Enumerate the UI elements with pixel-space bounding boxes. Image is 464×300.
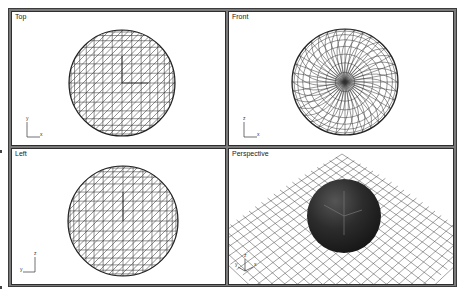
viewport-front[interactable]: z x Front [228,11,454,146]
viewport-top[interactable]: y x Top [11,11,226,146]
axis-gizmo [23,257,35,272]
axis-y-label: y [20,266,23,272]
axis-x-label: x [257,131,260,137]
viewport-layout: y x Top z x Front z y [8,8,457,287]
viewport-perspective[interactable]: z y x Perspective [228,148,454,285]
top-sphere-wireframe: y x [12,12,226,146]
axis-z-label: z [243,115,246,121]
axis-z-label: z [34,250,37,256]
left-sphere-wireframe: z y [12,149,226,285]
perspective-scene: z y x [229,149,454,285]
axis-gizmo [244,122,257,137]
viewport-label-front[interactable]: Front [232,13,248,20]
viewport-left[interactable]: z y Left [11,148,226,285]
axis-x-label: x [254,261,257,267]
left-panel-edge [0,150,2,153]
front-sphere-wireframe: z x [229,12,454,146]
viewport-label-left[interactable]: Left [15,150,27,157]
left-panel-edge [0,286,2,289]
viewport-label-perspective[interactable]: Perspective [232,150,269,157]
axis-x-label: x [40,131,43,137]
axis-gizmo [27,122,40,137]
viewport-label-top[interactable]: Top [15,13,26,20]
axis-y-label: y [26,115,29,121]
axis-y-label: y [235,261,238,267]
